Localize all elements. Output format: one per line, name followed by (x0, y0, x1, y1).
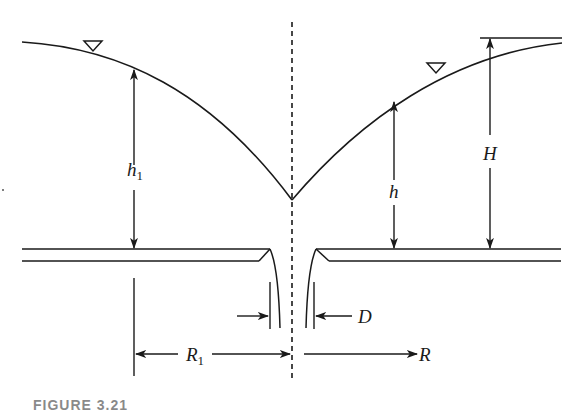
label-R1: R1 (185, 344, 204, 368)
water-table-marker-right-icon (427, 63, 445, 73)
water-table-marker-left-icon (84, 41, 102, 51)
drawdown-curve-right (292, 43, 562, 200)
well-casing-left (270, 249, 280, 328)
label-R: R (418, 344, 431, 365)
label-D: D (357, 306, 372, 327)
label-h1: h1 (127, 159, 143, 183)
label-H: H (482, 143, 498, 164)
drawdown-curve-left (22, 42, 292, 200)
figure-caption: FIGURE 3.21 (33, 398, 128, 412)
label-h: h (389, 181, 399, 202)
